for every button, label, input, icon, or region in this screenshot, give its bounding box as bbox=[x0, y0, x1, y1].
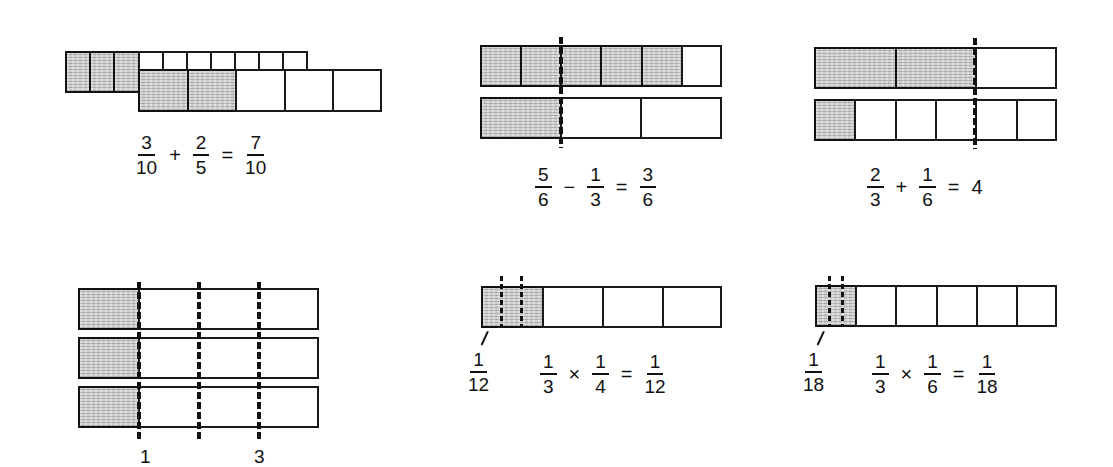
fifth-cell bbox=[284, 69, 334, 112]
quarter-cell bbox=[602, 286, 664, 328]
times-operator: × bbox=[901, 363, 913, 386]
fifth-cell-shaded bbox=[138, 69, 189, 112]
sixth-cell bbox=[1016, 99, 1057, 141]
dashed-marker bbox=[559, 37, 563, 148]
sixth-cell bbox=[895, 99, 937, 141]
quarter-cell bbox=[662, 286, 722, 328]
dashed-marker bbox=[973, 38, 977, 149]
third-cell bbox=[640, 97, 722, 139]
fraction-result: 710 bbox=[245, 133, 266, 177]
third-cell-shaded bbox=[895, 47, 977, 89]
fraction: 13 bbox=[587, 165, 604, 209]
tenth-cell bbox=[210, 51, 236, 71]
quarter-cell-shaded bbox=[481, 286, 544, 328]
sixth-cell-shaded bbox=[641, 45, 683, 87]
plus-operator: + bbox=[169, 144, 181, 167]
pointer-fraction-label: 112 bbox=[468, 350, 489, 394]
bar-remainder bbox=[138, 337, 319, 379]
bottom-label: 1 bbox=[140, 447, 151, 466]
fraction: 13 bbox=[540, 352, 557, 396]
quarter-cell bbox=[542, 286, 604, 328]
fraction: 310 bbox=[136, 133, 157, 177]
sixth-cell bbox=[854, 99, 897, 141]
sixth-cell bbox=[681, 45, 722, 87]
dashed-marker bbox=[137, 282, 141, 440]
sixth-cell-shaded bbox=[480, 45, 522, 87]
quarter-cell-shaded bbox=[78, 337, 140, 379]
tenth-cell bbox=[138, 51, 164, 71]
fraction: 16 bbox=[919, 165, 936, 209]
times-operator: × bbox=[569, 363, 581, 386]
fraction-result: 118 bbox=[977, 352, 998, 396]
bar-remainder bbox=[138, 288, 319, 330]
sixth-cell bbox=[855, 285, 897, 327]
equals-operator: = bbox=[221, 144, 233, 167]
tenth-cell bbox=[186, 51, 212, 71]
fifth-cell bbox=[235, 69, 286, 112]
equals-operator: = bbox=[621, 363, 633, 386]
equation-multiply-third-quarter: 13 × 14 = 112 bbox=[540, 352, 666, 396]
equation-multiply-third-sixth: 13 × 16 = 118 bbox=[872, 352, 998, 396]
quarter-cell-shaded bbox=[78, 288, 140, 330]
fraction-result: 112 bbox=[645, 352, 666, 396]
sixth-cell bbox=[975, 99, 1018, 141]
third-cell bbox=[975, 47, 1057, 89]
pointer-line bbox=[817, 331, 825, 345]
dashed-subdivision bbox=[841, 276, 844, 326]
equals-operator: = bbox=[948, 176, 960, 199]
sixth-cell bbox=[935, 99, 977, 141]
tenth-cell bbox=[162, 51, 188, 71]
sixth-cell-shaded bbox=[815, 285, 857, 327]
plus-operator: + bbox=[896, 176, 908, 199]
dashed-subdivision bbox=[520, 276, 523, 326]
equation-add-tenths-fifths: 310 + 25 = 710 bbox=[136, 133, 266, 177]
sixth-cell bbox=[976, 285, 1018, 327]
fraction: 13 bbox=[872, 352, 889, 396]
result-whole: 4 bbox=[972, 176, 983, 199]
bar-remainder bbox=[138, 386, 319, 428]
fifth-cell-shaded bbox=[187, 69, 237, 112]
equation-add-thirds-sixths: 23 + 16 = 4 bbox=[867, 165, 983, 209]
fraction: 14 bbox=[592, 352, 609, 396]
bottom-label: 3 bbox=[254, 447, 265, 466]
sixth-cell bbox=[1016, 285, 1057, 327]
equals-operator: = bbox=[953, 363, 965, 386]
tenth-cell bbox=[234, 51, 260, 71]
fraction: 16 bbox=[924, 352, 941, 396]
sixth-cell bbox=[895, 285, 938, 327]
fifth-cell bbox=[332, 69, 382, 112]
third-cell bbox=[560, 97, 642, 139]
tenth-cell-shaded bbox=[89, 51, 115, 93]
sixth-cell-shaded bbox=[814, 99, 856, 141]
dashed-subdivision bbox=[828, 276, 831, 326]
tenth-cell-shaded bbox=[65, 51, 91, 93]
sixth-cell-shaded bbox=[560, 45, 602, 87]
fraction: 25 bbox=[193, 133, 210, 177]
equation-subtract-sixths-thirds: 56 − 13 = 36 bbox=[535, 165, 656, 209]
fraction: 23 bbox=[867, 165, 884, 209]
third-cell-shaded bbox=[814, 47, 897, 89]
pointer-line bbox=[481, 331, 489, 345]
fraction: 56 bbox=[535, 165, 552, 209]
tenth-cell-shaded bbox=[113, 51, 140, 93]
dashed-marker bbox=[257, 282, 261, 440]
minus-operator: − bbox=[564, 176, 576, 199]
tenth-cell bbox=[282, 51, 308, 71]
dashed-marker bbox=[197, 282, 201, 440]
sixth-cell-shaded bbox=[520, 45, 562, 87]
tenth-cell bbox=[258, 51, 284, 71]
fraction-result: 36 bbox=[640, 165, 657, 209]
quarter-cell-shaded bbox=[78, 386, 140, 428]
equals-operator: = bbox=[616, 176, 628, 199]
sixth-cell-shaded bbox=[600, 45, 643, 87]
dashed-subdivision bbox=[500, 276, 503, 326]
third-cell-shaded bbox=[480, 97, 562, 139]
sixth-cell bbox=[936, 285, 978, 327]
pointer-fraction-label: 118 bbox=[803, 350, 824, 394]
